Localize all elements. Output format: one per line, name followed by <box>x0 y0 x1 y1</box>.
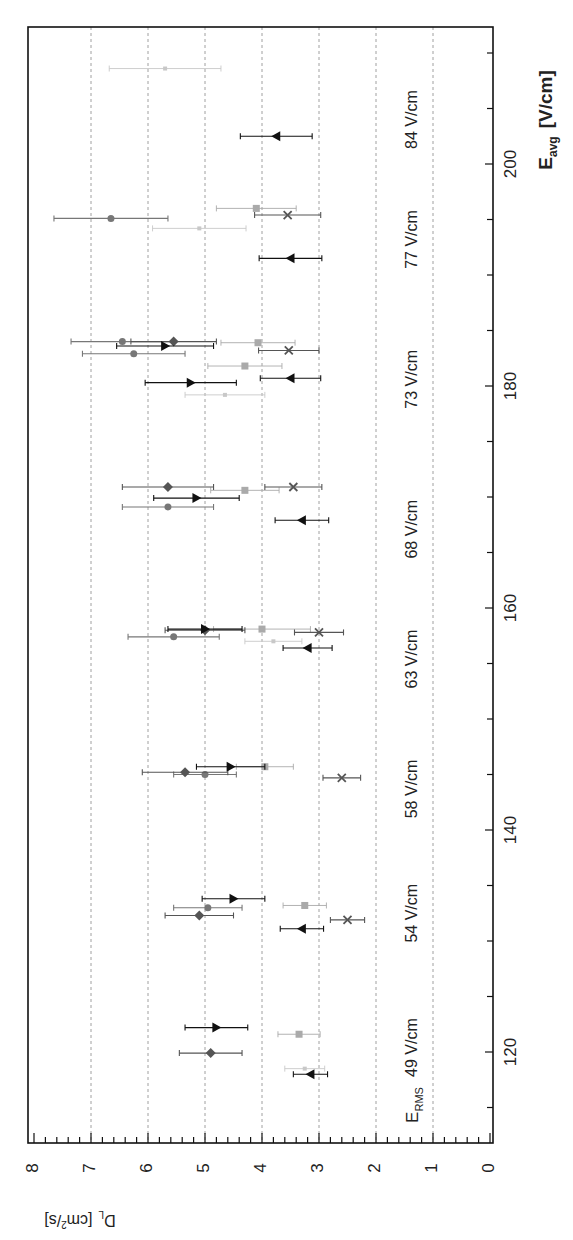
e-tick-label: 160 <box>501 594 520 622</box>
erms-group-label: 68 V/cm <box>403 500 420 559</box>
y-axis-title: DL[cm2/s] <box>44 1209 115 1230</box>
e-tick-label: 120 <box>501 1038 520 1066</box>
e-tick-label: 200 <box>501 150 520 178</box>
point-right-triangle <box>154 493 240 503</box>
point-left-triangle <box>240 131 312 141</box>
point-x-cross <box>330 916 364 924</box>
point-x-cross <box>259 346 319 354</box>
d-tick-label: 8 <box>23 1163 42 1172</box>
erms-group-label: 73 V/cm <box>403 350 420 409</box>
erms-group-labels: 49 V/cm54 V/cm58 V/cm63 V/cm68 V/cm73 V/… <box>403 90 420 1077</box>
point-left-triangle <box>275 515 329 525</box>
point-x-cross <box>265 483 322 491</box>
point-gray-square <box>283 902 326 909</box>
point-light-point <box>245 638 302 644</box>
point-diamond <box>179 1048 242 1058</box>
erms-group-label: 54 V/cm <box>403 884 420 943</box>
point-circle <box>174 904 242 911</box>
point-circle <box>122 503 213 510</box>
d-tick-label: 7 <box>80 1163 99 1172</box>
point-x-cross <box>255 211 321 219</box>
chart-canvas: 012345678120140160180200 49 V/cm54 V/cm5… <box>0 0 573 1240</box>
d-tick-label: 3 <box>308 1163 327 1172</box>
axis-tick-labels: 012345678120140160180200 <box>23 150 520 1173</box>
point-right-triangle <box>202 894 265 904</box>
d-tick-label: 5 <box>194 1163 213 1172</box>
point-gray-square <box>278 1031 320 1038</box>
axis-ticks <box>34 53 493 1143</box>
grid-lines <box>91 27 433 1143</box>
point-light-point <box>109 66 221 72</box>
erms-group-label: 77 V/cm <box>403 210 420 269</box>
frame-rect <box>28 27 493 1143</box>
d-tick-label: 0 <box>479 1163 498 1172</box>
point-light-point <box>185 392 265 398</box>
point-diamond <box>122 482 213 492</box>
point-left-triangle <box>260 373 320 383</box>
point-left-triangle <box>280 924 323 934</box>
e-tick-label: 180 <box>501 372 520 400</box>
point-left-triangle <box>259 253 322 263</box>
point-circle <box>54 215 168 222</box>
point-diamond <box>142 767 228 777</box>
point-right-triangle <box>145 378 236 388</box>
point-left-triangle <box>283 643 332 653</box>
point-left-triangle <box>293 1069 327 1079</box>
erms-header: ERMS <box>403 1087 425 1123</box>
x-axis-title: Eavg[V/cm] <box>535 70 560 169</box>
plot-frame <box>28 27 493 1143</box>
d-tick-label: 2 <box>365 1163 384 1172</box>
d-tick-label: 1 <box>422 1163 441 1172</box>
point-gray-square <box>208 363 282 370</box>
erms-group-label: 58 V/cm <box>403 760 420 819</box>
erms-group-label: 49 V/cm <box>403 1018 420 1077</box>
point-right-triangle <box>196 762 264 772</box>
e-tick-label: 140 <box>501 816 520 844</box>
point-diamond <box>131 337 217 347</box>
data-points <box>54 66 365 1080</box>
erms-group-label: 63 V/cm <box>403 630 420 689</box>
point-gray-square <box>221 339 295 346</box>
erms-group-label: 84 V/cm <box>403 90 420 149</box>
point-diamond <box>165 910 233 920</box>
point-right-triangle <box>185 1023 248 1033</box>
point-gray-square <box>211 487 279 494</box>
point-x-cross <box>323 774 361 782</box>
point-light-point <box>153 225 246 231</box>
d-tick-label: 4 <box>251 1163 270 1172</box>
point-circle <box>82 350 185 357</box>
d-tick-label: 6 <box>137 1163 156 1172</box>
